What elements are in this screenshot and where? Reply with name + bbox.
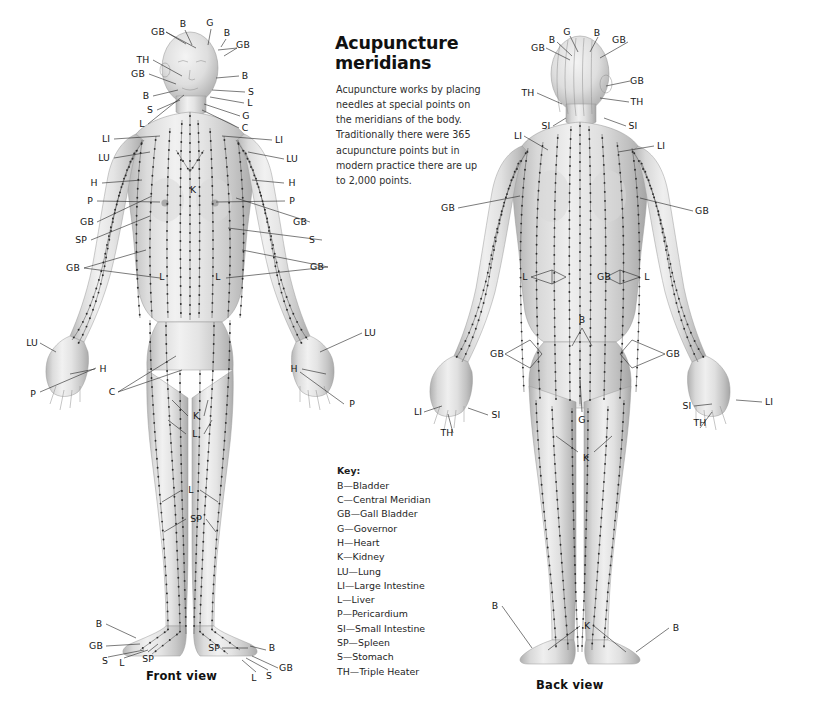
acupoint	[86, 326, 88, 328]
acupoint	[153, 413, 155, 415]
acupoint	[693, 353, 695, 355]
acupoint	[200, 586, 202, 588]
acupoint	[151, 184, 153, 186]
acupoint	[172, 478, 174, 480]
acupoint	[586, 474, 588, 476]
acupoint	[151, 386, 153, 388]
meridian-label-si: SI	[683, 401, 692, 410]
acupoint	[189, 160, 191, 162]
acupoint	[189, 151, 191, 153]
meridian-label-h: H	[99, 364, 106, 373]
meridian-label-b: B	[579, 315, 585, 324]
acupoint	[537, 352, 539, 354]
acupoint	[508, 188, 510, 190]
acupoint	[590, 309, 592, 311]
acupoint	[601, 508, 603, 510]
acupoint	[229, 229, 231, 231]
acupoint	[573, 528, 575, 530]
meridian-label-b: B	[549, 35, 555, 44]
acupoint	[536, 307, 538, 309]
acupoint	[212, 361, 214, 363]
acupoint	[569, 147, 571, 149]
acupoint	[483, 289, 485, 291]
acupoint	[497, 231, 499, 233]
acupoint	[198, 463, 200, 465]
acupoint	[211, 167, 213, 169]
acupoint	[577, 636, 579, 638]
acupoint	[199, 186, 201, 188]
acupoint	[680, 319, 682, 321]
acupoint	[603, 173, 605, 175]
acupoint	[621, 343, 623, 345]
acupoint	[568, 300, 570, 302]
meridian-label-b: B	[96, 619, 102, 628]
acupoint	[590, 264, 592, 266]
meridian-label-gb: GB	[236, 40, 250, 49]
meridian-label-g: G	[206, 18, 213, 27]
acupoint	[177, 568, 179, 570]
acupoint	[555, 173, 557, 175]
acupoint	[229, 323, 231, 325]
acupoint	[633, 152, 635, 154]
acupoint	[179, 382, 181, 384]
acupoint	[669, 263, 671, 265]
acupoint	[135, 242, 137, 244]
acupoint	[539, 172, 541, 174]
acupoint	[151, 310, 153, 312]
acupoint	[292, 313, 294, 315]
acupoint	[212, 212, 214, 214]
acupoint	[182, 526, 184, 528]
meridian-label-gb: GB	[151, 27, 165, 36]
acupoint	[568, 228, 570, 230]
acupoint	[632, 151, 634, 153]
acupoint	[637, 349, 639, 351]
meridian-label-l: L	[139, 119, 144, 128]
meridian-label-si: SI	[492, 410, 501, 419]
acupoint	[150, 283, 152, 285]
acupoint	[572, 465, 574, 467]
acupoint	[211, 311, 213, 313]
acupoint	[557, 137, 559, 139]
acupoint	[150, 368, 152, 370]
acupoint	[92, 309, 94, 311]
acupoint	[666, 245, 668, 247]
acupoint	[657, 210, 659, 212]
meridian-label-gb: GB	[310, 262, 324, 271]
acupoint	[210, 149, 212, 151]
acupoint	[199, 622, 201, 624]
acupoint	[686, 336, 688, 338]
acupoint	[585, 519, 587, 521]
acupoint	[487, 272, 489, 274]
acupoint	[241, 296, 243, 298]
acupoint	[246, 158, 248, 160]
acupoint	[702, 356, 704, 358]
acupoint	[637, 340, 639, 342]
meridian-label-gb: GB	[66, 263, 80, 272]
acupoint	[683, 315, 685, 317]
front-foot-right	[194, 626, 257, 656]
acupoint	[633, 160, 635, 162]
acupoint	[536, 421, 538, 423]
acupoint	[552, 418, 554, 420]
acupoint	[152, 166, 154, 168]
acupoint	[166, 370, 168, 372]
acupoint	[606, 609, 608, 611]
acupoint	[228, 368, 230, 370]
acupoint	[541, 493, 543, 495]
acupoint	[544, 520, 546, 522]
acupoint	[199, 231, 201, 233]
acupoint	[167, 388, 169, 390]
meridian-label-k: K	[583, 453, 589, 462]
acupoint	[520, 250, 522, 252]
acupoint	[199, 204, 201, 206]
acupoint	[129, 161, 131, 163]
acupoint	[149, 229, 151, 231]
acupoint	[588, 138, 590, 140]
acupoint	[212, 284, 214, 286]
acupoint	[125, 174, 127, 176]
acupoint	[618, 475, 620, 477]
acupoint	[639, 259, 641, 261]
acupoint	[221, 476, 223, 478]
acupoint	[521, 331, 523, 333]
acupoint	[552, 600, 554, 602]
